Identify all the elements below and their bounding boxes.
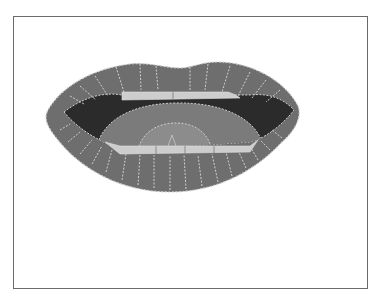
lips-illustration bbox=[0, 0, 382, 303]
